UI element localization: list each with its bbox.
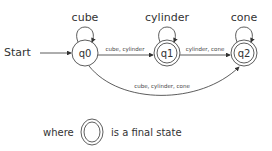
transition-q0-q2 (89, 66, 239, 95)
transition-label-q1-q2: cylinder, cone (186, 46, 225, 53)
transition-label-q0-q1: cube, cylinder (106, 46, 146, 53)
self-loop-label-q2: cone (231, 11, 258, 24)
state-label: q2 (238, 48, 251, 59)
legend: where is a final state (43, 119, 182, 145)
start-label: Start (4, 46, 32, 59)
legend-prefix: where (43, 127, 74, 138)
state-label: q1 (161, 48, 174, 59)
fsa-diagram: Start q0 cube q1 cylinder q2 cone cube, … (0, 0, 272, 151)
legend-suffix: is a final state (111, 127, 182, 138)
state-q0: q0 (72, 40, 98, 66)
state-label: q0 (79, 48, 92, 59)
state-q2: q2 (231, 40, 257, 66)
transition-label-q0-q2: cube, cylinder, cone (134, 83, 190, 90)
state-q1: q1 (154, 40, 180, 66)
self-loop-label-q0: cube (72, 11, 99, 24)
self-loop-label-q1: cylinder (145, 11, 189, 24)
